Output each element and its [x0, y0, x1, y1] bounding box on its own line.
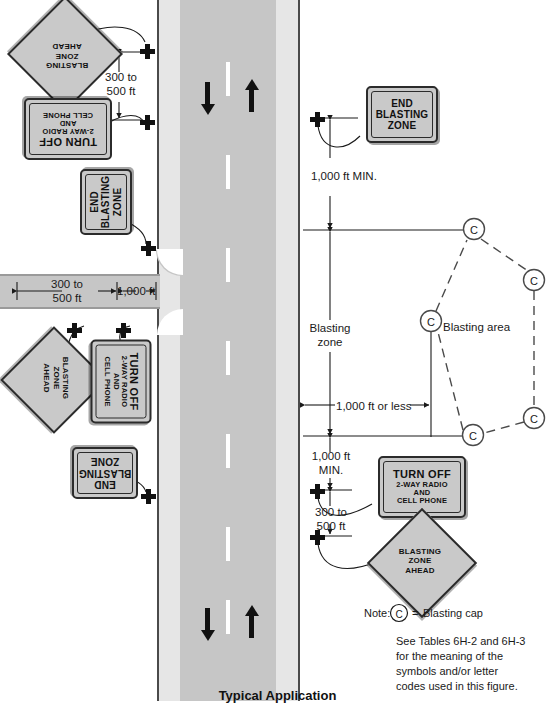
- note-equals: =: [412, 606, 418, 621]
- sign-line: BLASTING: [46, 61, 89, 70]
- leader-line: [318, 126, 360, 147]
- sign-line: BLASTING: [79, 467, 132, 478]
- sign-line: END: [94, 479, 116, 490]
- sign-post-symbol: [140, 115, 155, 130]
- figure-caption: Typical Application: [0, 688, 555, 703]
- sign-turn-off-northbound: TURN OFF 2-WAY RADIO AND CELL PHONE: [24, 98, 112, 160]
- sign-blasting-zone-ahead-sideroad: BLASTING ZONE AHEAD: [20, 342, 92, 414]
- sign-blasting-zone-ahead-southbound: BLASTING ZONE AHEAD: [383, 524, 457, 598]
- sign-end-blasting-zone-northbound: END BLASTING ZONE: [72, 447, 138, 499]
- note-reference-line: See Tables 6H-2 and 6H-3: [396, 634, 525, 649]
- dim-label-sideroad-300-500: 300 to 500 ft: [38, 277, 96, 306]
- note-prefix: Note:: [364, 606, 390, 621]
- sign-line: TURN OFF: [393, 468, 451, 480]
- note-text: Blasting cap: [423, 606, 483, 621]
- note-reference-line: symbols and/or letter: [396, 664, 525, 679]
- sign-line: ZONE: [388, 120, 417, 131]
- dim-label-top-300-500: 300 to 500 ft: [95, 70, 147, 99]
- sign-line: BLASTING: [61, 357, 70, 400]
- sign-line: AND: [60, 119, 77, 127]
- dim-label-upper-1000-min: 1,000 ft MIN.: [311, 169, 377, 183]
- dim-label-blasting-width: 1,000 ft or less: [336, 399, 411, 413]
- cap-letter: C: [427, 316, 435, 328]
- blasting-area-polygon: [436, 239, 534, 433]
- note-cap-letter: C: [395, 609, 402, 620]
- label-blasting-zone: Blasting zone: [305, 321, 355, 350]
- sign-line: CELL PHONE: [397, 497, 447, 505]
- sign-end-blasting-zone-southbound: END BLASTING ZONE: [366, 86, 438, 143]
- note-reference-line: for the meaning of the: [396, 649, 525, 664]
- sign-post-symbol: [67, 323, 82, 338]
- sign-line: BLASTING: [399, 547, 442, 556]
- sign-line: AHEAD: [42, 363, 51, 392]
- sign-post-symbol: [310, 112, 325, 127]
- leader-line: [318, 544, 376, 568]
- sign-line: AND: [111, 373, 119, 390]
- label-blasting-area: Blasting area: [443, 320, 510, 334]
- note-reference: See Tables 6H-2 and 6H-3 for the meaning…: [396, 634, 525, 693]
- sign-line: BLASTING: [376, 109, 429, 120]
- sign-line: ZONE: [51, 366, 60, 389]
- sign-end-blasting-zone-sideroad-east: END BLASTING ZONE: [80, 169, 132, 235]
- cap-letter: C: [530, 275, 538, 287]
- sign-line: ZONE: [408, 556, 431, 565]
- sign-line: CELL PHONE: [102, 356, 110, 406]
- sign-line: TURN OFF: [127, 352, 139, 410]
- cap-letter: C: [470, 224, 478, 236]
- sign-turn-off-sideroad: TURN OFF 2-WAY RADIO AND CELL PHONE: [91, 340, 152, 424]
- sign-post-symbol: [310, 484, 325, 499]
- sign-line: 2-WAY RADIO: [119, 356, 127, 407]
- sign-line: BLASTING: [100, 176, 111, 229]
- sign-line: ZONE: [112, 188, 123, 217]
- sign-line: ZONE: [91, 456, 120, 467]
- sign-line: END: [89, 191, 100, 213]
- sign-post-symbol: [140, 44, 155, 59]
- sign-line: AHEAD: [52, 42, 81, 51]
- sign-line: TURN OFF: [39, 135, 97, 147]
- sign-post-symbol: [116, 323, 131, 338]
- sign-line: 2-WAY RADIO: [42, 127, 93, 135]
- sign-post-symbol: [141, 241, 156, 256]
- cap-letter: C: [530, 413, 538, 425]
- cap-letter: C: [469, 430, 477, 442]
- sign-post-symbol: [141, 489, 156, 504]
- sign-line: AHEAD: [405, 566, 434, 575]
- dim-label-lower-1000-min: 1,000 ft MIN.: [303, 449, 359, 478]
- sign-line: ZONE: [55, 51, 78, 60]
- sign-line: CELL PHONE: [43, 110, 93, 118]
- dim-label-sideroad-1000: 1,000 ft: [117, 284, 155, 298]
- sign-line: END: [391, 98, 413, 109]
- dim-label-bottom-300-500: 300 to 500 ft: [303, 505, 359, 534]
